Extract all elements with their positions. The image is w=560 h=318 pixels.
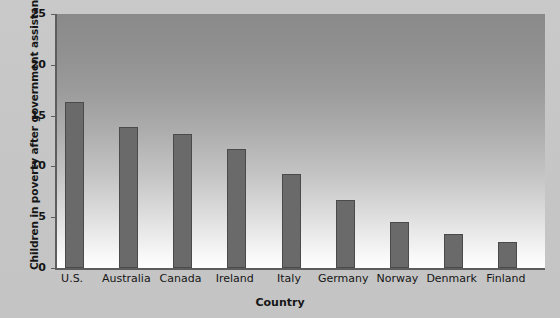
y-axis-tick: 0 xyxy=(51,268,57,269)
x-axis-tick-label: Norway xyxy=(377,272,419,285)
y-axis-tick-label: 25 xyxy=(31,7,46,20)
bar xyxy=(173,134,192,268)
plot-area: 0510152025 xyxy=(55,14,545,270)
bar xyxy=(65,102,84,268)
x-axis-tick-label: Canada xyxy=(160,272,202,285)
y-axis-tick: 10 xyxy=(51,166,57,167)
plot-inner: 0510152025 xyxy=(57,14,545,268)
bar xyxy=(498,242,517,268)
x-axis-tick-label: U.S. xyxy=(61,272,83,285)
bar-chart-figure: Children in poverty after government ass… xyxy=(0,0,560,318)
y-axis-tick-label: 20 xyxy=(31,58,46,71)
y-axis-tick: 20 xyxy=(51,65,57,66)
x-axis-tick-label: Italy xyxy=(277,272,301,285)
x-axis-tick-label: Australia xyxy=(102,272,151,285)
x-axis-title: Country xyxy=(0,296,560,309)
y-axis-tick-label: 15 xyxy=(31,109,46,122)
bar xyxy=(282,174,301,268)
y-axis-tick-label: 10 xyxy=(31,159,46,172)
bar xyxy=(336,200,355,268)
x-axis-tick-label: Germany xyxy=(318,272,369,285)
y-axis-title: Children in poverty after government ass… xyxy=(28,4,40,270)
x-axis-tick-label: Denmark xyxy=(426,272,477,285)
bar xyxy=(119,127,138,268)
bar xyxy=(227,149,246,268)
x-axis-tick-label: Finland xyxy=(486,272,525,285)
y-axis-tick: 5 xyxy=(51,217,57,218)
bar xyxy=(444,234,463,268)
y-axis-tick-label: 5 xyxy=(38,210,46,223)
bar xyxy=(390,222,409,268)
x-axis-tick-label: Ireland xyxy=(216,272,254,285)
y-axis-tick: 15 xyxy=(51,116,57,117)
y-axis-tick-label: 0 xyxy=(38,261,46,274)
y-axis-tick: 25 xyxy=(51,14,57,15)
